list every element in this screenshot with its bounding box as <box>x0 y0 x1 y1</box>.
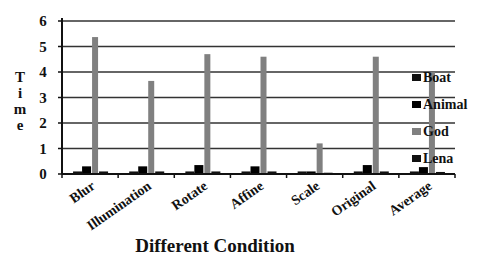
legend-label: Boat <box>423 70 451 85</box>
x-category-label: Affine <box>227 178 266 212</box>
y-tick-label: 6 <box>39 13 47 29</box>
x-axis-title: Different Condition <box>135 235 295 256</box>
gridlines <box>62 21 455 149</box>
y-label-letter: T <box>15 69 25 85</box>
x-category-label: Average <box>386 178 435 218</box>
legend-swatch-animal <box>412 101 421 108</box>
legend-swatch-lena <box>412 155 421 162</box>
y-label-letter: m <box>14 101 27 117</box>
y-tick-label: 0 <box>39 166 47 182</box>
y-axis-label: Time <box>14 69 27 133</box>
y-label-letter: i <box>18 85 22 101</box>
bar-animal <box>82 166 91 174</box>
legend-label: God <box>423 124 449 139</box>
y-tick-label: 4 <box>39 64 47 80</box>
bar-god <box>148 81 154 174</box>
x-category-label: Rotate <box>169 178 210 213</box>
legend-swatch-god <box>412 128 421 135</box>
x-category-label: Original <box>328 178 378 219</box>
y-tick-label: 3 <box>39 90 47 106</box>
bar-animal <box>138 166 147 174</box>
bars <box>73 37 445 174</box>
x-category-label: Scale <box>288 178 322 208</box>
legend-swatch-boat <box>412 74 421 81</box>
bar-animal <box>251 166 260 174</box>
y-tick-label: 2 <box>39 115 47 131</box>
legend: BoatAnimalGodLena <box>412 70 467 166</box>
y-tick-label: 5 <box>39 39 47 55</box>
bar-chart: 0123456 Time BlurIlluminationRotateAffin… <box>0 0 485 272</box>
bar-god <box>373 57 379 174</box>
bar-animal <box>419 167 428 174</box>
y-label-letter: e <box>17 117 24 133</box>
y-axis-ticks: 0123456 <box>39 13 62 182</box>
bar-animal <box>194 165 203 174</box>
bar-god <box>261 57 267 174</box>
bar-animal <box>363 165 372 174</box>
bar-god <box>92 37 98 174</box>
legend-label: Animal <box>423 97 467 112</box>
bar-god <box>317 143 323 174</box>
y-tick-label: 1 <box>39 141 47 157</box>
x-axis-categories: BlurIlluminationRotateAffineScaleOrigina… <box>67 178 435 233</box>
bar-god <box>204 54 210 174</box>
x-category-label: Blur <box>67 178 98 206</box>
legend-label: Lena <box>423 151 453 166</box>
